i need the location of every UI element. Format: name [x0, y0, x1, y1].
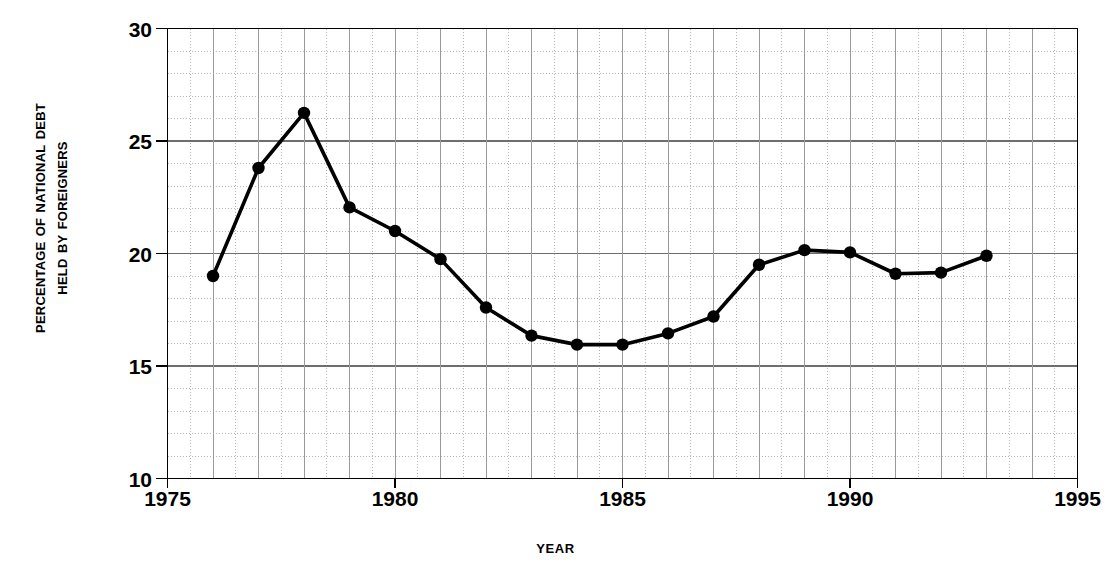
data-point [571, 338, 583, 350]
x-axis-tick-label: 1985 [578, 488, 668, 509]
axis-tick-marks [156, 29, 1078, 488]
data-point [343, 201, 355, 213]
x-axis-tick-label: 1990 [805, 488, 895, 509]
data-point [389, 225, 401, 237]
data-point [434, 253, 446, 265]
data-point [980, 250, 992, 262]
data-point [207, 270, 219, 282]
data-point [662, 327, 674, 339]
data-point [935, 266, 947, 278]
x-axis-tick-labels: 19751980198519901995 [0, 488, 1111, 518]
x-axis-tick-label: 1995 [1033, 488, 1111, 509]
x-axis-tick-label: 1980 [350, 488, 440, 509]
data-point [298, 107, 310, 119]
x-axis-tick-label: 1975 [123, 488, 213, 509]
data-series-line [213, 113, 987, 345]
data-point [798, 244, 810, 256]
data-point [753, 259, 765, 271]
data-point [252, 162, 264, 174]
chart-figure: Percentage of National Debt Held by Fore… [0, 0, 1111, 578]
data-point [844, 246, 856, 258]
data-point [525, 329, 537, 341]
data-point [707, 310, 719, 322]
data-point [616, 338, 628, 350]
data-point [480, 301, 492, 313]
x-axis-title-text: Year [536, 536, 575, 557]
x-axis-title: Year [0, 536, 1111, 558]
data-point [889, 268, 901, 280]
